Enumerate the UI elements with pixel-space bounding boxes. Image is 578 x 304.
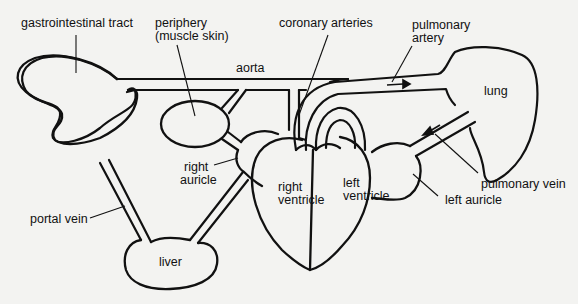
label-left-ventricle-2: ventricle xyxy=(343,190,390,203)
portal-vein-wall-1 xyxy=(100,163,141,240)
pulmonary-vein-wall-1 xyxy=(410,112,468,146)
label-periphery-detail: (muscle skin) xyxy=(155,30,229,43)
label-right-auricle-2: auricle xyxy=(180,174,217,187)
right-auricle-shape xyxy=(236,131,278,186)
pulmonary-vein-wall-2 xyxy=(416,122,475,156)
label-pulmonary-artery-2: artery xyxy=(412,32,444,45)
circulatory-diagram xyxy=(0,0,578,304)
hepatic-vein-wall-2 xyxy=(198,180,248,243)
label-aorta: aorta xyxy=(236,62,265,75)
label-liver: liver xyxy=(159,256,182,269)
periphery-shape xyxy=(161,101,229,147)
portal-vein-wall-2 xyxy=(109,160,151,242)
label-pulmonary-vein: pulmonary vein xyxy=(481,178,566,191)
label-gastrointestinal-tract: gastrointestinal tract xyxy=(21,17,133,30)
pulmonary-artery-outer xyxy=(294,47,537,182)
pulmonary-artery-arrow-icon xyxy=(387,80,410,88)
heart-septum xyxy=(310,150,313,270)
label-coronary-arteries: coronary arteries xyxy=(279,17,373,30)
label-left-auricle: left auricle xyxy=(445,194,502,207)
label-portal-vein: portal vein xyxy=(30,213,88,226)
label-lung: lung xyxy=(484,85,508,98)
pulmonary-artery-inner xyxy=(306,89,455,150)
label-right-ventricle-2: ventricle xyxy=(278,194,325,207)
gastrointestinal-tract-outline xyxy=(22,56,137,144)
